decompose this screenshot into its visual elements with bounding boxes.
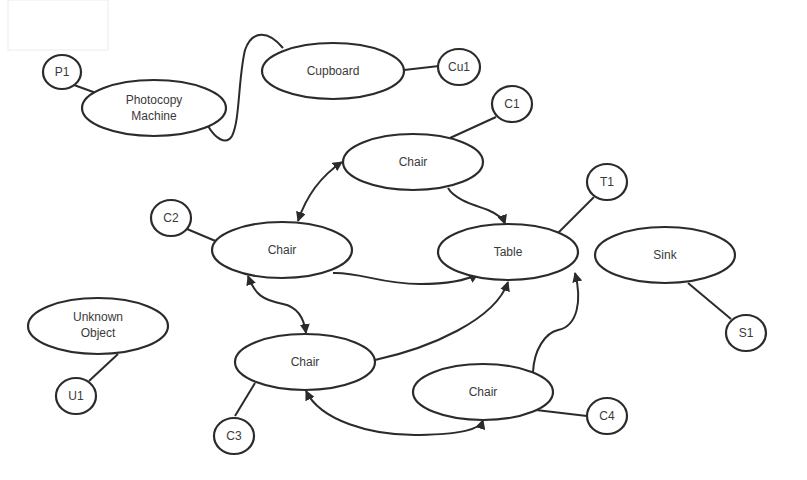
link-u1-unknown (89, 354, 118, 381)
edge-chair-top-table (448, 188, 505, 224)
instance-p1[interactable]: P1 (43, 55, 81, 89)
background-artifact (8, 0, 108, 50)
link-s1-sink (688, 283, 731, 319)
node-chair-right[interactable]: Chair (413, 364, 553, 420)
node-label: Sink (653, 248, 677, 262)
object-graph-diagram: Photocopy Machine Cupboard Chair Chair T… (0, 0, 807, 480)
link-c1-chair (450, 117, 496, 138)
edge-chair-left-chair-mid (248, 276, 306, 333)
link-p1-photocopy (74, 85, 96, 93)
instance-c3[interactable]: C3 (214, 418, 254, 454)
node-chair-mid[interactable]: Chair (235, 334, 375, 390)
link-c3-chair (235, 383, 255, 416)
node-label: Machine (131, 109, 177, 123)
instance-t1[interactable]: T1 (587, 164, 627, 200)
instance-label: T1 (600, 175, 614, 189)
instance-label: P1 (55, 65, 70, 79)
edge-chair-left-table (333, 273, 478, 284)
instance-label: Cu1 (448, 60, 470, 74)
edge-chair-left-chair-top (298, 162, 342, 221)
link-t1-table (558, 197, 594, 233)
node-chair-top[interactable]: Chair (343, 134, 483, 190)
node-label: Chair (469, 385, 498, 399)
instance-label: C4 (599, 409, 615, 423)
node-label: Chair (291, 355, 320, 369)
instance-label: C1 (504, 97, 520, 111)
node-label: Table (494, 245, 523, 259)
node-unknown-object[interactable]: Unknown Object (28, 298, 168, 354)
node-table[interactable]: Table (438, 224, 578, 280)
node-label: Cupboard (307, 64, 360, 78)
instance-cu1[interactable]: Cu1 (438, 49, 480, 85)
node-chair-left[interactable]: Chair (212, 222, 352, 278)
node-sink[interactable]: Sink (595, 227, 735, 283)
instance-c1[interactable]: C1 (492, 86, 532, 122)
instance-u1[interactable]: U1 (56, 378, 96, 414)
node-label: Unknown (73, 310, 123, 324)
edge-chair-mid-table (375, 282, 508, 360)
object-nodes: Photocopy Machine Cupboard Chair Chair T… (28, 43, 735, 420)
instance-label: U1 (68, 389, 84, 403)
instance-label: C2 (163, 211, 179, 225)
instance-label: C3 (226, 429, 242, 443)
instance-c2[interactable]: C2 (151, 200, 191, 236)
node-label: Photocopy (126, 93, 183, 107)
instance-s1[interactable]: S1 (726, 315, 766, 351)
edge-photocopy-cupboard (208, 35, 283, 141)
edge-chair-right-table (533, 273, 578, 372)
instance-label: S1 (739, 326, 754, 340)
node-photocopy-machine[interactable]: Photocopy Machine (82, 80, 226, 136)
link-cu1-cupboard (404, 66, 439, 70)
node-cupboard[interactable]: Cupboard (262, 43, 404, 99)
node-label: Chair (399, 155, 428, 169)
node-label: Object (81, 326, 116, 340)
node-label: Chair (268, 243, 297, 257)
link-c4-chair (536, 410, 587, 416)
instance-c4[interactable]: C4 (587, 398, 627, 434)
